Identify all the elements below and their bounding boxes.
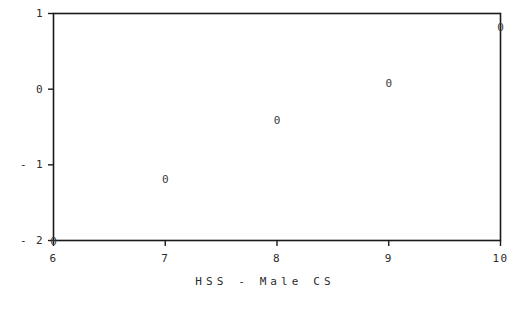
y-tick-label: 0 bbox=[0, 84, 44, 95]
data-point-marker: 0 bbox=[274, 115, 281, 126]
x-tick-label: 6 bbox=[24, 253, 84, 264]
axes-rectangle bbox=[54, 14, 501, 241]
y-tick-label: - 1 bbox=[0, 159, 44, 170]
x-tick-label: 10 bbox=[471, 253, 530, 264]
data-point-marker: 0 bbox=[497, 22, 504, 33]
x-axis-ticks bbox=[54, 241, 501, 247]
y-tick-label: - 2 bbox=[0, 235, 44, 246]
data-point-marker: 0 bbox=[50, 235, 57, 246]
plot-border bbox=[54, 14, 501, 241]
data-point-marker: 0 bbox=[385, 78, 392, 89]
y-tick-label: 1 bbox=[0, 8, 44, 19]
data-point-marker: 0 bbox=[162, 174, 169, 185]
y-axis-ticks bbox=[48, 14, 54, 241]
x-tick-label: 9 bbox=[359, 253, 419, 264]
x-tick-label: 7 bbox=[135, 253, 195, 264]
scatter-plot-figure: 10- 1- 2 678910 00000 HSS - Male CS bbox=[0, 0, 530, 309]
x-axis-title: HSS - Male CS bbox=[0, 276, 530, 287]
x-tick-label: 8 bbox=[247, 253, 307, 264]
